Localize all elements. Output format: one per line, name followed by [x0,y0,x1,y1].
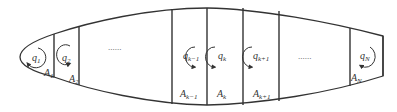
q-label-k+1: qk+1 [253,50,269,63]
a-label-N: AN [350,72,362,85]
q-label-k: qk [218,50,227,63]
ellipsis-left: ...... [108,42,122,52]
a-label-k: Ak [216,88,227,101]
a-label-1: A1 [43,67,54,80]
ellipsis-right: ...... [298,51,312,61]
cell-partition-diagram: q1 q2 qk−1 qk qk+1 qN A1 A2 Ak−1 Ak Ak+1… [0,0,397,112]
q-label-k-1: qk−1 [183,50,199,63]
circulation-arrow-icon-k+1 [242,47,252,67]
q-label-2: q2 [62,52,71,65]
a-label-k-1: Ak−1 [179,88,197,101]
q-label-N: qN [360,50,370,63]
q-label-1: q1 [32,52,41,65]
a-label-k+1: Ak+1 [252,88,270,101]
outer-boundary [20,8,383,105]
